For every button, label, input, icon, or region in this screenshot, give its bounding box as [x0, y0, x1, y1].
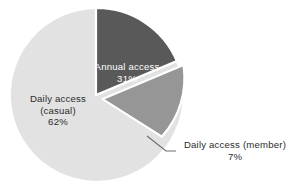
slice-label-daily-access-member-percent: 7%: [176, 151, 294, 163]
slice-label-daily-access-casual-percent: 62%: [20, 116, 96, 128]
pie-chart-figure: Annual access 31% Daily access (casual) …: [0, 0, 297, 189]
slice-label-daily-access-member-name: Daily access (member): [176, 139, 294, 151]
slice-label-daily-access-casual-qualifier: (casual): [20, 105, 96, 117]
slice-label-annual-access-name: Annual access: [92, 61, 162, 73]
slice-label-daily-access-casual-name: Daily access: [20, 93, 96, 105]
slice-label-annual-access: Annual access 31%: [92, 61, 162, 84]
slice-label-annual-access-percent: 31%: [92, 73, 162, 85]
slice-label-daily-access-casual: Daily access (casual) 62%: [20, 93, 96, 128]
slice-label-daily-access-member: Daily access (member) 7%: [176, 139, 294, 162]
